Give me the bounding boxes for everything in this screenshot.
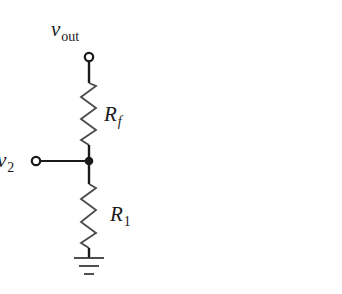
label-r1: R1 <box>110 204 131 225</box>
label-rf-main: R <box>104 102 117 126</box>
label-rf-sub: f <box>118 114 122 129</box>
label-v2-sub: 2 <box>7 160 14 175</box>
circuit-schematic <box>0 0 342 294</box>
ground-icon <box>74 258 104 274</box>
resistor-rf <box>81 83 96 145</box>
label-rf: Rf <box>104 104 122 125</box>
label-r1-main: R <box>110 202 123 226</box>
resistor-r1 <box>81 184 96 248</box>
label-vout-main: v <box>51 17 60 41</box>
label-v2-main: v <box>0 148 6 172</box>
label-r1-sub: 1 <box>124 214 131 229</box>
label-v2: v2 <box>0 150 14 171</box>
vout-terminal <box>85 53 93 61</box>
v2-terminal <box>32 157 40 165</box>
label-vout: vout <box>51 19 79 40</box>
label-vout-sub: out <box>61 29 79 44</box>
